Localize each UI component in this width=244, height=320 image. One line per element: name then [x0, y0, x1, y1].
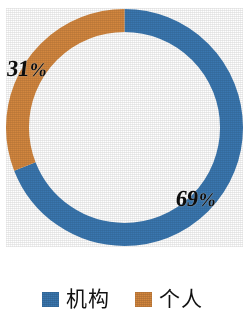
donut-svg: [6, 8, 243, 247]
percent-sign-individual: %: [28, 59, 49, 80]
data-label-institution: 69%: [175, 187, 218, 210]
legend-item-institution[interactable]: 机构: [42, 289, 109, 310]
chart-legend: 机构 个人: [0, 289, 244, 310]
data-label-institution-value: 69: [174, 186, 199, 211]
percent-sign-institution: %: [197, 189, 218, 210]
legend-swatch-institution: [42, 292, 59, 307]
data-label-individual-value: 31: [5, 56, 30, 81]
legend-swatch-individual: [135, 292, 152, 307]
data-label-individual: 31%: [6, 57, 49, 80]
legend-label-individual: 个人: [159, 289, 202, 310]
legend-item-individual[interactable]: 个人: [135, 289, 202, 310]
legend-label-institution: 机构: [66, 289, 109, 310]
donut-chart: 31% 69% 机构 个人: [0, 0, 244, 320]
donut-graphic: [6, 8, 243, 247]
